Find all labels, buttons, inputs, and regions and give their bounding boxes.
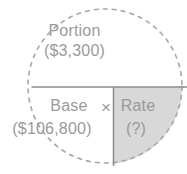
base-label: Base: [38, 97, 100, 115]
rate-label: Rate: [114, 97, 162, 115]
portion-value: ($3,300): [0, 42, 187, 60]
rate-value: (?): [114, 120, 158, 138]
base-value: ($106,800): [0, 120, 104, 138]
multiplication-operator-icon: ×: [98, 99, 114, 117]
percentage-circle-diagram: Portion ($3,300) Base × Rate ($106,800) …: [0, 0, 187, 174]
portion-label: Portion: [0, 22, 187, 40]
